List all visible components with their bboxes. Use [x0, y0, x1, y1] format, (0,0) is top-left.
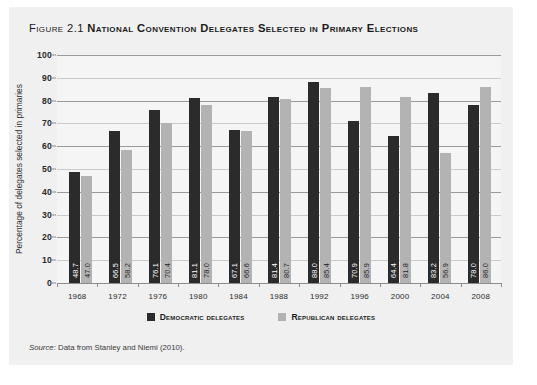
- bar-value-label: 76.1: [150, 263, 159, 278]
- y-axis-tick-mark: [52, 77, 56, 78]
- legend-item[interactable]: Republican delegates: [278, 312, 375, 322]
- x-axis-tick-mark: [299, 283, 339, 289]
- bar-value-label: 80.7: [281, 263, 290, 278]
- bar[interactable]: 76.1: [149, 110, 160, 284]
- y-axis-tick-mark: [52, 214, 56, 215]
- legend-label: Democratic delegates: [160, 312, 245, 322]
- bar-group: 81.480.7: [260, 55, 300, 283]
- bar-group: 67.166.6: [220, 55, 260, 283]
- chart-plot: Percentage of delegates selected in prim…: [57, 55, 501, 283]
- y-axis-tick-mark: [52, 237, 56, 238]
- bar-value-label: 64.4: [389, 263, 398, 278]
- bar-value-label: 88.0: [309, 263, 318, 278]
- x-axis-tick-label: 2000: [380, 292, 420, 301]
- bar-value-label: 48.7: [70, 263, 79, 278]
- bar[interactable]: 81.8: [400, 97, 411, 284]
- bar-group: 64.481.8: [380, 55, 420, 283]
- bar-value-label: 85.9: [361, 263, 370, 278]
- bar[interactable]: 78.0: [468, 105, 479, 283]
- y-axis-tick-mark: [52, 283, 56, 284]
- bar[interactable]: 67.1: [229, 130, 240, 283]
- y-axis-tick-label: 10: [12, 255, 52, 265]
- bar[interactable]: 81.4: [268, 97, 279, 283]
- bar[interactable]: 66.5: [109, 131, 120, 283]
- bar-value-label: 70.4: [162, 263, 171, 278]
- y-axis-tick-label: 60: [12, 141, 52, 151]
- x-axis-tick-label: 1968: [57, 292, 97, 301]
- bar[interactable]: 48.7: [69, 172, 80, 283]
- x-axis-tick-mark: [420, 283, 460, 289]
- x-axis-tick-label: 2004: [420, 292, 460, 301]
- source-text: Data from Stanley and Niemi (2010).: [56, 343, 185, 352]
- bar-value-label: 78.0: [469, 263, 478, 278]
- bar[interactable]: 85.9: [360, 87, 371, 283]
- figure-panel: Figure 2.1 National Convention Delegates…: [9, 7, 513, 365]
- bar-group: 83.256.9: [419, 55, 459, 283]
- bar[interactable]: 78.0: [201, 105, 212, 283]
- bar-group: 81.178.0: [180, 55, 220, 283]
- bar[interactable]: 47.0: [81, 176, 92, 283]
- x-axis-tick-label: 1972: [97, 292, 137, 301]
- bar[interactable]: 83.2: [428, 93, 439, 283]
- y-axis-tick-mark: [52, 100, 56, 101]
- bar[interactable]: 56.9: [440, 153, 451, 283]
- x-axis-tick-mark: [138, 283, 178, 289]
- y-axis-tick-label: 40: [12, 187, 52, 197]
- x-axis-tick-label: 1996: [340, 292, 380, 301]
- bar-value-label: 67.1: [230, 263, 239, 278]
- bar[interactable]: 66.6: [241, 131, 252, 283]
- x-axis-tick-mark: [259, 283, 299, 289]
- y-axis-tick-mark: [52, 55, 56, 56]
- bar-value-label: 66.5: [110, 263, 119, 278]
- bar-group: 78.086.0: [459, 55, 499, 283]
- bar-value-label: 81.4: [269, 263, 278, 278]
- x-axis-tick-mark: [57, 283, 97, 289]
- source-label: Source:: [29, 343, 56, 352]
- legend-label: Republican delegates: [291, 312, 375, 322]
- bar-group: 88.085.4: [300, 55, 340, 283]
- bar-value-label: 70.9: [349, 263, 358, 278]
- bar[interactable]: 81.1: [189, 98, 200, 283]
- y-axis-tick-mark: [52, 146, 56, 147]
- y-axis-tick-label: 0: [12, 278, 52, 288]
- chart-legend: Democratic delegatesRepublican delegates: [9, 312, 513, 322]
- bar-group: 70.985.9: [340, 55, 380, 283]
- y-axis-tick-mark: [52, 123, 56, 124]
- legend-swatch-icon: [147, 313, 155, 321]
- y-axis-tick-label: 30: [12, 210, 52, 220]
- bar[interactable]: 64.4: [388, 136, 399, 283]
- y-axis-tick-label: 100: [12, 50, 52, 60]
- bar[interactable]: 70.4: [161, 123, 172, 284]
- x-axis-tick-label: 1988: [259, 292, 299, 301]
- legend-item[interactable]: Democratic delegates: [147, 312, 245, 322]
- bar[interactable]: 80.7: [280, 99, 291, 283]
- bar-value-label: 47.0: [82, 263, 91, 278]
- bar-value-label: 86.0: [481, 263, 490, 278]
- y-axis-tick-label: 50: [12, 164, 52, 174]
- x-axis-tick-mark: [218, 283, 258, 289]
- y-axis-tick-mark: [52, 169, 56, 170]
- bar-groups: 48.747.066.558.276.170.481.178.067.166.6…: [57, 55, 501, 283]
- bar-group: 48.747.0: [61, 55, 101, 283]
- bar-value-label: 85.4: [321, 263, 330, 278]
- bar[interactable]: 85.4: [320, 88, 331, 283]
- y-axis-tick-label: 90: [12, 73, 52, 83]
- bar-group: 66.558.2: [101, 55, 141, 283]
- figure-number: Figure 2.1: [29, 22, 84, 34]
- x-axis-tick-mark: [178, 283, 218, 289]
- bar[interactable]: 86.0: [480, 87, 491, 283]
- bar-value-label: 81.1: [190, 263, 199, 278]
- x-axis-tick-label: 1992: [299, 292, 339, 301]
- x-axis-tickmarks: [57, 283, 501, 289]
- bar-value-label: 78.0: [202, 263, 211, 278]
- bar[interactable]: 70.9: [348, 121, 359, 283]
- bar-value-label: 58.2: [122, 263, 131, 278]
- bar[interactable]: 88.0: [308, 82, 319, 283]
- y-axis-tick-label: 70: [12, 118, 52, 128]
- x-axis-tick-label: 2008: [461, 292, 501, 301]
- y-axis-tick-mark: [52, 191, 56, 192]
- x-axis-labels: 1968197219761980198419881992199620002004…: [57, 292, 501, 301]
- y-axis-tick-label: 20: [12, 232, 52, 242]
- bar-value-label: 83.2: [429, 263, 438, 278]
- bar[interactable]: 58.2: [121, 150, 132, 283]
